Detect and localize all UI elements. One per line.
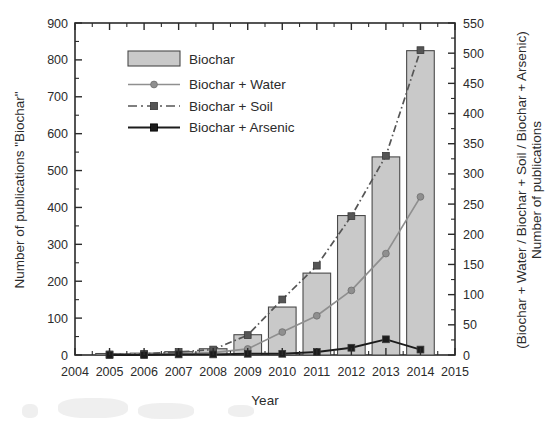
x-tick-label: 2005: [96, 365, 124, 379]
y-tick-label-right: 400: [463, 107, 484, 121]
y-tick-label-left: 500: [47, 164, 68, 178]
y-tick-label-right: 200: [463, 228, 484, 242]
publications-trend-chart: 0100200300400500600700800900050100150200…: [0, 0, 551, 433]
legend-marker-biochar-arsenic: [150, 124, 157, 131]
bar-2014: [407, 51, 435, 355]
x-tick-label: 2008: [199, 365, 227, 379]
y-tick-label-left: 400: [47, 201, 68, 215]
y-axis-right-title-line1: Number of publications: [529, 121, 544, 259]
marker-biochar-soil-2010: [279, 296, 286, 303]
y-tick-label-right: 550: [463, 17, 484, 31]
marker-biochar-arsenic-2013: [383, 336, 390, 343]
marker-biochar-water-2013: [383, 250, 390, 257]
y-tick-label-right: 350: [463, 137, 484, 151]
x-tick-label: 2013: [372, 365, 400, 379]
x-tick-label: 2009: [234, 365, 262, 379]
y-tick-label-right: 500: [463, 47, 484, 61]
y-tick-label-left: 900: [47, 17, 68, 31]
marker-biochar-water-2012: [348, 287, 355, 294]
y-tick-label-right: 50: [463, 318, 477, 332]
marker-biochar-soil-2013: [383, 152, 390, 159]
y-tick-label-right: 300: [463, 167, 484, 181]
legend-swatch-biochar: [128, 51, 180, 66]
y-axis-right-title-line2: (Biochar + Water / Biochar + Soil / Bioc…: [514, 31, 529, 348]
marker-biochar-water-2011: [313, 312, 320, 319]
y-tick-label-right: 150: [463, 258, 484, 272]
y-tick-label-right: 450: [463, 77, 484, 91]
y-tick-label-left: 800: [47, 53, 68, 67]
y-tick-label-right: 250: [463, 198, 484, 212]
marker-biochar-water-2010: [279, 329, 286, 336]
y-tick-label-left: 600: [47, 127, 68, 141]
marker-biochar-soil-2009: [244, 332, 251, 339]
x-tick-label: 2014: [407, 365, 435, 379]
y-tick-label-right: 100: [463, 288, 484, 302]
marker-biochar-soil-2012: [348, 213, 355, 220]
y-tick-label-right: 0: [463, 349, 470, 363]
figure-container: 0100200300400500600700800900050100150200…: [0, 0, 551, 433]
legend-label-biochar-arsenic: Biochar + Arsenic: [189, 120, 295, 135]
legend-label-biochar: Biochar: [189, 52, 235, 67]
legend-label-biochar-water: Biochar + Water: [189, 77, 286, 92]
y-tick-label-left: 700: [47, 90, 68, 104]
legend-marker-biochar-water: [151, 81, 158, 88]
x-tick-label: 2010: [268, 365, 296, 379]
legend-label-biochar-soil: Biochar + Soil: [189, 99, 273, 114]
y-axis-left-title: Number of publications "Biochar": [12, 91, 27, 288]
x-tick-label: 2004: [61, 365, 89, 379]
marker-biochar-soil-2011: [313, 262, 320, 269]
marker-biochar-soil-2014: [417, 47, 424, 54]
x-tick-label: 2011: [303, 365, 330, 379]
x-tick-label: 2006: [130, 365, 158, 379]
x-axis-title: Year: [251, 393, 279, 408]
y-tick-label-left: 200: [47, 275, 68, 289]
y-tick-label-left: 300: [47, 238, 68, 252]
y-tick-label-left: 0: [61, 349, 68, 363]
bar-2012: [338, 216, 366, 355]
marker-biochar-water-2014: [417, 193, 424, 200]
legend-marker-biochar-soil: [150, 102, 157, 109]
x-tick-label: 2015: [441, 365, 469, 379]
x-tick-label: 2007: [165, 365, 193, 379]
y-tick-label-left: 100: [47, 312, 68, 326]
x-tick-label: 2012: [337, 365, 365, 379]
